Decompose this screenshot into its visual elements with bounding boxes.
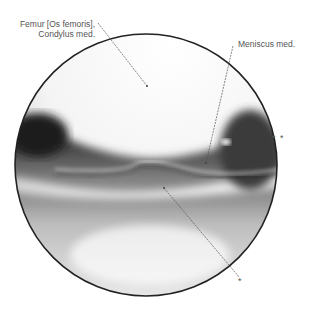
single-asterisk-marker: * <box>238 276 242 286</box>
double-asterisk-marker: * * <box>272 133 285 143</box>
meniscus-label: Meniscus med. <box>238 39 295 49</box>
lower-highlight <box>70 225 230 285</box>
specular-highlight <box>221 139 231 145</box>
marker-leader-dot <box>163 187 165 189</box>
meniscus-leader-dot <box>205 162 207 164</box>
femur-label-line1: Femur [Os femoris], <box>20 19 95 29</box>
femur-label: Femur [Os femoris], Condylus med. <box>20 19 95 39</box>
femur-leader-dot <box>146 85 148 87</box>
dark-shadow-left <box>8 113 68 157</box>
dark-shadow-right <box>220 110 280 190</box>
femur-label-line2: Condylus med. <box>20 29 95 39</box>
